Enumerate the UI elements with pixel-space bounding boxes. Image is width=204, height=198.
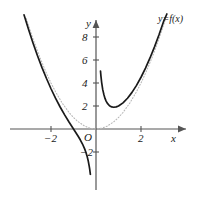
function-graph-figure: −2 2 2 4 6 8 −2 O x y y=f(x) — [0, 0, 204, 198]
function-curve-right-branch — [101, 14, 167, 107]
origin-label: O — [84, 132, 92, 143]
x-axis-label: x — [171, 133, 176, 144]
x-axis-arrow-icon — [178, 126, 186, 133]
y-axis-arrow-icon — [93, 20, 100, 28]
curve-label: y=f(x) — [158, 14, 183, 24]
y-tick-label-2: 2 — [82, 101, 88, 112]
x-tick-label-minus2: −2 — [44, 133, 57, 144]
y-tick-label-4: 4 — [82, 78, 88, 89]
y-tick-label-6: 6 — [82, 55, 88, 66]
y-tick-label-8: 8 — [82, 32, 88, 43]
x-tick-label-2: 2 — [138, 133, 144, 144]
plot-canvas — [0, 0, 204, 198]
y-axis-label: y — [86, 18, 91, 29]
y-tick-label-minus2: −2 — [80, 147, 93, 158]
